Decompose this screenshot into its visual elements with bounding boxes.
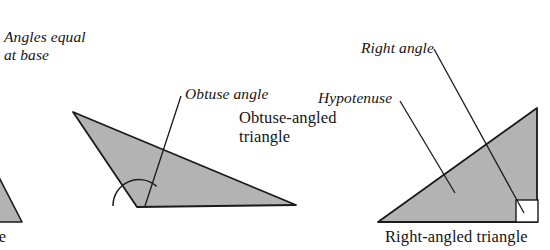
obtuse-triangle-caption: Obtuse-angled triangle	[239, 108, 337, 147]
isosceles-triangle	[0, 152, 22, 222]
hypotenuse-leader-line	[400, 101, 455, 193]
illustration-page: Angles equal at base Obtuse angle Right …	[0, 0, 550, 250]
isosceles-triangle-caption: le	[0, 227, 6, 246]
right-angle-label: Right angle	[361, 39, 434, 57]
angles-equal-at-base-label: Angles equal at base	[4, 28, 86, 65]
obtuse-angle-label: Obtuse angle	[185, 85, 268, 103]
right-triangle	[378, 108, 537, 222]
hypotenuse-label: Hypotenuse	[318, 89, 392, 107]
right-triangle-caption: Right-angled triangle	[385, 227, 528, 246]
